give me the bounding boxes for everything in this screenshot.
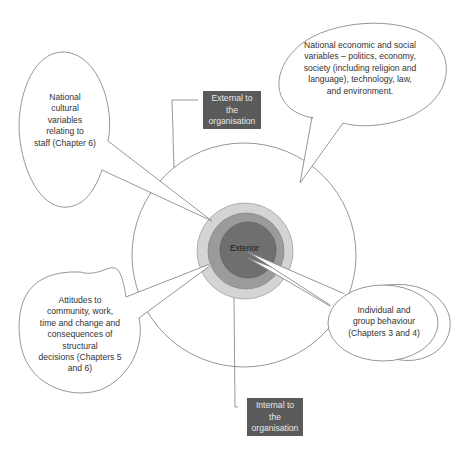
attitudes-line-4: consequences of <box>30 329 130 340</box>
individual-group-line-2: group behaviour <box>338 316 430 327</box>
national-cultural-line-5: staff (Chapter 6) <box>22 138 108 149</box>
external-leader-line <box>172 100 198 168</box>
national-cultural-text: National cultural variables relating to … <box>22 92 108 149</box>
internal-box-line-2: the <box>247 412 303 424</box>
national-economic-line-4: language), technology, law, <box>290 74 430 85</box>
external-box-line-2: the <box>203 105 261 117</box>
attitudes-line-2: community, work, <box>30 306 130 317</box>
external-box-line-3: organisation <box>203 116 261 128</box>
national-cultural-line-4: relating to <box>22 126 108 137</box>
attitudes-line-3: time and change and <box>30 318 130 329</box>
individual-group-line-1: Individual and <box>338 305 430 316</box>
national-economic-line-3: society (including religion and <box>290 63 430 74</box>
national-cultural-line-3: variables <box>22 115 108 126</box>
internal-box: Internal to the organisation <box>247 398 303 436</box>
external-box-line-1: External to <box>203 93 261 105</box>
individual-group-text: Individual and group behaviour (Chapters… <box>338 305 430 339</box>
attitudes-line-6: decisions (Chapters 5 <box>30 352 130 363</box>
national-economic-text: National economic and social variables –… <box>290 40 430 97</box>
internal-box-line-3: organisation <box>247 423 303 435</box>
individual-group-line-3: (Chapters 3 and 4) <box>338 328 430 339</box>
national-economic-line-2: variables – politics, economy, <box>290 51 430 62</box>
national-economic-line-1: National economic and social <box>290 40 430 51</box>
attitudes-line-7: and 6) <box>30 363 130 374</box>
national-cultural-line-1: National <box>22 92 108 103</box>
national-economic-line-5: and environment. <box>290 86 430 97</box>
attitudes-text: Attitudes to community, work, time and c… <box>30 295 130 375</box>
internal-leader-line <box>234 298 238 407</box>
attitudes-line-1: Attitudes to <box>30 295 130 306</box>
internal-box-line-1: Internal to <box>247 400 303 412</box>
attitudes-line-5: structural <box>30 341 130 352</box>
national-cultural-line-2: cultural <box>22 103 108 114</box>
center-label-exterior: Exterior <box>230 243 259 253</box>
external-box: External to the organisation <box>203 91 261 129</box>
